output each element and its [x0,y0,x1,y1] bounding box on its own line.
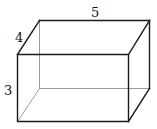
rectangular-prism-diagram: 5 4 3 [0,0,157,129]
width-label: 4 [15,30,23,45]
length-label: 5 [91,5,99,20]
hidden-edge-bottom-left-depth [18,89,40,122]
front-face [18,55,129,122]
edge-bottom-right-depth [129,89,150,122]
height-label: 3 [4,83,12,98]
edge-top-right-depth [129,21,150,55]
